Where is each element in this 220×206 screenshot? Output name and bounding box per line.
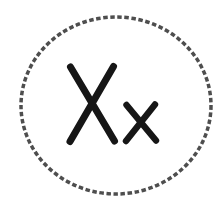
letter-case-circle-icon: Xx <box>0 0 220 206</box>
icon-canvas <box>0 0 220 206</box>
small-x-glyph <box>126 105 156 142</box>
capital-x-glyph <box>70 67 115 142</box>
dashed-circle-border <box>21 17 211 194</box>
